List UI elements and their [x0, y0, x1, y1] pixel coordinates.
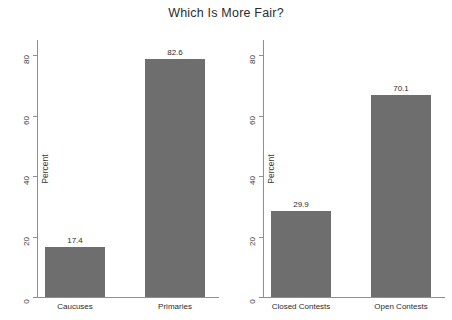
y-tick-label-0-right: 0 — [248, 299, 257, 303]
bar-value-closed-contests: 29.9 — [271, 200, 331, 209]
y-tick-label-80-left: 80 — [22, 55, 31, 64]
y-tick-label-80-right: 80 — [248, 55, 257, 64]
page-title: Which Is More Fair? — [0, 6, 452, 20]
chart-figure: Which Is More Fair? Percent 0 20 40 60 — [0, 0, 452, 320]
y-tick-label-60-left: 60 — [22, 116, 31, 125]
y-axis-line-right — [263, 40, 264, 298]
y-tick-mark-80-right — [259, 55, 263, 56]
y-axis-line-left — [37, 40, 38, 298]
plot-area-left: Percent 0 20 40 60 80 17.4 — [37, 40, 219, 298]
x-category-label-caucuses: Caucuses — [45, 302, 105, 311]
bar-closed-contests[interactable] — [271, 211, 331, 297]
y-tick-label-40-right: 40 — [248, 176, 257, 185]
y-tick-label-20-left: 20 — [22, 237, 31, 246]
y-tick-label-60-right: 60 — [248, 116, 257, 125]
y-tick-mark-60-right — [259, 116, 263, 117]
y-tick-label-0-left: 0 — [22, 299, 31, 303]
y-tick-mark-80-left — [33, 55, 37, 56]
x-axis-line-left — [37, 297, 219, 298]
y-tick-mark-40-right — [259, 176, 263, 177]
x-category-label-primaries: Primaries — [145, 302, 205, 311]
chart-panel-closed-vs-open-contests: Percent 0 20 40 60 80 29.9 — [226, 34, 452, 314]
y-tick-mark-20-left — [33, 237, 37, 238]
chart-panel-caucuses-vs-primaries: Percent 0 20 40 60 80 17.4 — [0, 34, 226, 314]
bar-open-contests[interactable] — [371, 95, 431, 297]
bar-caucuses[interactable] — [45, 247, 105, 297]
y-axis-title-right: Percent — [266, 154, 276, 183]
x-axis-line-right — [263, 297, 445, 298]
y-tick-label-40-left: 40 — [22, 176, 31, 185]
bar-value-open-contests: 70.1 — [371, 84, 431, 93]
bar-value-primaries: 82.6 — [145, 48, 205, 57]
y-tick-mark-40-left — [33, 176, 37, 177]
x-category-label-closed-contests: Closed Contests — [271, 302, 331, 311]
y-tick-mark-20-right — [259, 237, 263, 238]
y-tick-mark-0-left — [33, 297, 37, 298]
x-category-label-open-contests: Open Contests — [371, 302, 431, 311]
y-tick-mark-60-left — [33, 116, 37, 117]
bar-primaries[interactable] — [145, 59, 205, 297]
bar-value-caucuses: 17.4 — [45, 236, 105, 245]
plot-area-right: Percent 0 20 40 60 80 29.9 — [263, 40, 445, 298]
y-tick-label-20-right: 20 — [248, 237, 257, 246]
y-axis-title-left: Percent — [40, 154, 50, 183]
y-tick-mark-0-right — [259, 297, 263, 298]
